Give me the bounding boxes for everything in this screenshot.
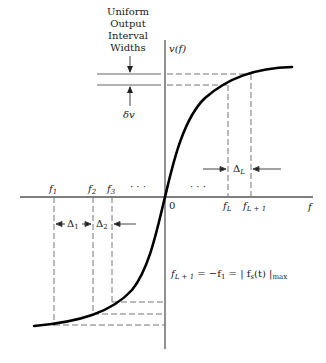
title-line-3: Interval [80, 30, 176, 42]
annotation-title: Uniform Output Interval Widths [80, 6, 176, 54]
dashed-guides [54, 74, 251, 326]
title-line-2: Output [80, 18, 176, 30]
x-axis-label: f [308, 202, 312, 212]
delta-2-label: Δ2 [96, 219, 108, 229]
tick-f3: f3 [107, 184, 115, 194]
delta-v-label: δv [123, 110, 135, 120]
tick-f2: f2 [88, 184, 96, 194]
y-axis-label: v(f) [169, 44, 186, 54]
tick-fL1: fL + 1 [243, 201, 266, 211]
compander-characteristic-diagram [0, 0, 326, 363]
delta-L-label: ΔL [233, 164, 245, 174]
tick-f1: f1 [49, 184, 57, 194]
ellipsis-left: · · · [130, 182, 146, 192]
delta-1-label: Δ1 [67, 219, 79, 229]
down-arrowhead-icon [127, 66, 133, 73]
tick-fL: fL [223, 201, 231, 211]
ellipsis-right: · · · [190, 182, 206, 192]
title-line-1: Uniform [80, 6, 176, 18]
origin-label: 0 [169, 201, 175, 211]
title-line-4: Widths [80, 42, 176, 54]
max-equation: fL + 1 = −f1 = | fs(t) |max [171, 269, 287, 279]
up-arrowhead-icon [127, 86, 133, 93]
